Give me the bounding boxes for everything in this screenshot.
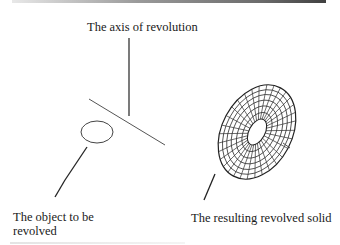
solid-label: The resulting revolved solid: [191, 211, 332, 225]
axis-label: The axis of revolution: [87, 20, 198, 34]
profile-ellipse: [81, 121, 113, 143]
revolve-diagram: [0, 0, 340, 245]
solid-leader-line: [204, 174, 215, 200]
object-leader-line: [65, 147, 87, 180]
wireframe-torus: [203, 71, 312, 192]
axis-of-revolution-line: [89, 99, 165, 145]
bottom-divider: [10, 242, 185, 244]
object-label: The object to be revolved: [13, 210, 103, 238]
